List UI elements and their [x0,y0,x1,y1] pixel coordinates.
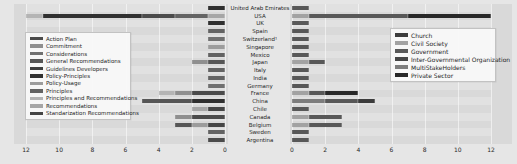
legend-swatch-icon [30,67,43,71]
axis-tick-label: 2 [323,146,327,153]
legend-item: MultiStakeHolders [395,64,491,71]
legend-item: Government [395,48,491,55]
legend-label: Guidelines Developers [46,66,108,72]
legend-swatch-icon [30,89,43,93]
axis-tick-label: 4 [356,146,360,153]
legend-swatch-icon [30,52,43,56]
legend-label: Standarization Recommendations [46,110,139,116]
axis-tick-label: 6 [390,146,394,153]
legend-item: Considerations [30,51,126,57]
axis-tick-label: 12 [22,146,30,153]
axis-tick-label: 4 [157,146,161,153]
bar-segment [192,99,225,103]
bar-segment [192,60,209,64]
country-label: Argentina [228,137,292,143]
legend-item: Commitment [30,43,126,49]
bar-segment [142,99,192,103]
legend-item: Action Plan [30,36,126,42]
country-label: Switzerland¹ [228,36,292,42]
axis-tick-label: 10 [454,146,462,153]
bar-segment [159,91,176,95]
bar-segment [309,115,342,119]
legend-swatch-icon [395,49,408,53]
bar-row [292,82,491,90]
country-label: USA [228,13,292,19]
document-type-legend: Action PlanCommitmentConsiderationsGener… [25,32,131,120]
legend-item: General Recommendations [30,58,126,64]
legend-item: Standarization Recommendations [30,110,126,116]
bar-segment [208,53,225,57]
axis-tick-label: 2 [190,146,194,153]
bar-segment [292,37,309,41]
bar-segment [292,107,309,111]
bar-segment [208,123,225,127]
bar-segment [309,123,342,127]
bar-segment [292,68,309,72]
bar-segment [292,6,309,10]
country-label: Sweden [228,129,292,135]
legend-label: Civil Society [411,40,448,47]
legend-label: Policy-Usage [46,80,81,86]
stacked-bar-butterfly-figure: United Arab EmiratesUSAUKSpainSwitzerlan… [0,0,517,164]
bar-segment [309,91,326,95]
legend-label: Principles [46,88,72,94]
bar-segment [208,68,225,72]
legend-item: Policy-Usage [30,80,126,86]
bar-segment [292,138,309,142]
axis-tick-label: 8 [423,146,427,153]
bar-segment [292,53,309,57]
bar-segment [292,130,309,134]
legend-label: Government [411,48,448,55]
country-label: Germany [228,83,292,89]
bar-segment [208,6,225,10]
legend-swatch-icon [395,41,408,45]
bar-segment [192,123,209,127]
axis-tick-label: 12 [487,146,495,153]
country-label: Japan [228,59,292,65]
bar-segment [292,123,309,127]
bar-row [292,97,491,105]
bar-segment [292,99,325,103]
bar-segment [292,60,309,64]
axis-tick-label: 0 [290,146,294,153]
legend-label: Action Plan [46,36,77,42]
bar-segment [292,115,309,119]
bar-segment [208,29,225,33]
bar-row [26,136,225,144]
bar-row [292,136,491,144]
bar-segment [192,115,225,119]
bar-row [292,128,491,136]
bar-segment [292,91,309,95]
legend-swatch-icon [395,57,408,61]
bar-row [292,20,491,28]
bar-row [292,90,491,98]
bar-segment [208,138,225,142]
bar-segment [175,123,192,127]
bar-segment [292,76,309,80]
bar-segment [309,14,409,18]
legend-swatch-icon [30,59,43,63]
bar-row [26,20,225,28]
country-label: Spain [228,28,292,34]
legend-item: Guidelines Developers [30,66,126,72]
legend-label: Principles and Recommendations [46,95,137,101]
bar-segment [175,91,192,95]
legend-item: Policy-Principles [30,73,126,79]
legend-item: Inter-Governmental Organization [395,56,491,63]
bar-segment [408,14,491,18]
stakeholder-legend: ChurchCivil SocietyGovernmentInter-Gover… [390,28,496,82]
axis-tick-label: 6 [124,146,128,153]
bar-segment [175,14,208,18]
bar-segment [292,29,309,33]
legend-swatch-icon [30,74,43,78]
legend-item: Principles and Recommendations [30,95,126,101]
bar-segment [208,60,225,64]
bar-row [26,128,225,136]
bar-segment [309,60,326,64]
bar-segment [192,107,209,111]
legend-swatch-icon [30,112,43,116]
legend-item: Church [395,32,491,39]
country-label: France [228,90,292,96]
country-label: India [228,75,292,81]
legend-label: Commitment [46,43,82,49]
